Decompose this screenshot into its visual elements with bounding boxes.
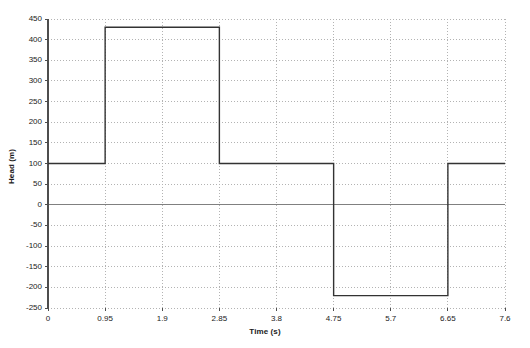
- y-tick-label: 350: [8, 55, 42, 64]
- x-tick-label: 3.8: [257, 314, 297, 323]
- y-tick-label: -150: [8, 262, 42, 271]
- x-tick-label: 6.65: [428, 314, 468, 323]
- x-tick-label: 0.95: [85, 314, 125, 323]
- x-tick-label: 0: [28, 314, 68, 323]
- x-axis-title: Time (s): [0, 327, 530, 336]
- y-tick-label: -100: [8, 241, 42, 250]
- x-tick-marks: [48, 308, 505, 311]
- y-axis-title-wrap: Head (m): [2, 130, 16, 210]
- x-tick-label: 2.85: [199, 314, 239, 323]
- y-tick-label: 200: [8, 117, 42, 126]
- y-tick-label: -250: [8, 303, 42, 312]
- x-tick-label: 5.7: [371, 314, 411, 323]
- y-tick-label: 250: [8, 97, 42, 106]
- x-tick-label: 7.6: [485, 314, 525, 323]
- y-tick-label: -50: [8, 220, 42, 229]
- y-tick-label: -200: [8, 282, 42, 291]
- x-tick-label: 1.9: [142, 314, 182, 323]
- y-tick-label: 300: [8, 76, 42, 85]
- chart-container: -250-200-150-100-50050100150200250300350…: [0, 0, 530, 348]
- head-vs-time-line-chart: [0, 0, 530, 348]
- y-axis-title: Head (m): [7, 132, 16, 202]
- y-tick-label: 400: [8, 35, 42, 44]
- y-tick-label: 450: [8, 14, 42, 23]
- x-tick-label: 4.75: [314, 314, 354, 323]
